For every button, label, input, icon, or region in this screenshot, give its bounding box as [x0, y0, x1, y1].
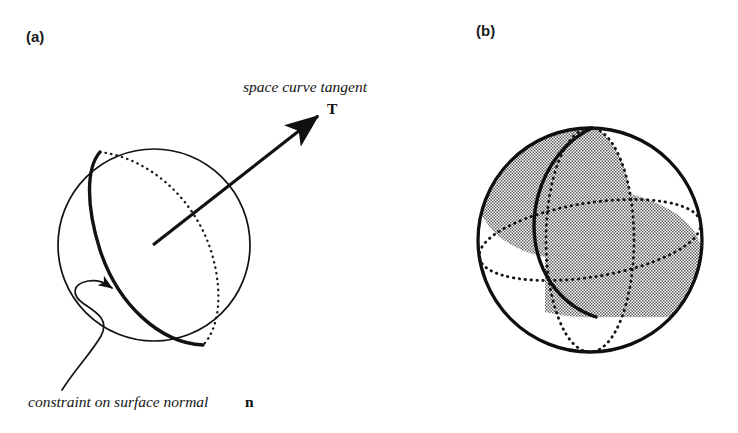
panel-label-b: (b) — [476, 22, 495, 39]
constraint-curve-back-dotted — [100, 152, 218, 345]
constraint-leader-curve — [62, 281, 112, 390]
constraint-on-surface-normal-label: constraint on surface normal — [28, 393, 208, 411]
constraint-curve-front-solid — [90, 152, 204, 345]
tangent-vector-label: T — [327, 100, 337, 118]
panel-a-graphic — [0, 0, 738, 433]
figure-container: (a) (b) space curve tangent T constraint… — [0, 0, 738, 433]
panel-label-a: (a) — [26, 28, 44, 45]
shaded-spherical-region — [478, 128, 702, 317]
tangent-vector-arrow — [153, 116, 318, 245]
space-curve-tangent-label: space curve tangent — [243, 78, 367, 96]
normal-vector-label: n — [245, 393, 254, 411]
